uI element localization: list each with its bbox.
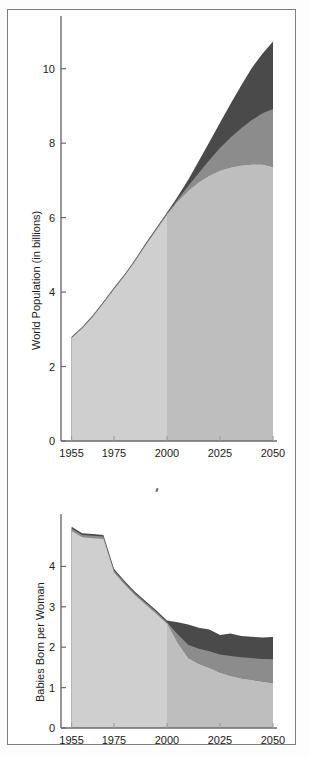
y-tick-label: 1 [49, 682, 55, 694]
y-tick-label: 0 [49, 722, 55, 734]
x-tick-label: 2050 [261, 734, 285, 746]
x-tick-label: 1975 [102, 447, 126, 459]
chart-world-population: World Population (in billions) 024681019… [8, 10, 297, 480]
y-tick-label: 3 [49, 601, 55, 613]
y-tick-label: 4 [49, 560, 55, 572]
x-tick-label: 1955 [59, 734, 83, 746]
y-tick-label: 0 [49, 435, 55, 447]
y-tick-label: 2 [49, 361, 55, 373]
x-tick-label: 2025 [208, 447, 232, 459]
x-tick-label: 1975 [102, 734, 126, 746]
world-population-area-chart: 024681019551975200020252050 [8, 10, 297, 480]
y-tick-label: 8 [49, 137, 55, 149]
x-tick-label: 2000 [155, 447, 179, 459]
chart-babies-per-woman: Babies Born per Woman 012341955197520002… [8, 480, 297, 746]
y-tick-label: 10 [43, 63, 55, 75]
x-tick-label: 2000 [155, 734, 179, 746]
x-tick-label: 2025 [208, 734, 232, 746]
y-tick-label: 2 [49, 641, 55, 653]
babies-per-woman-area-chart: 0123419551975200020252050 [8, 480, 297, 746]
y-tick-label: 6 [49, 212, 55, 224]
figure-page: World Population (in billions) 024681019… [0, 0, 309, 757]
x-tick-label: 2050 [261, 447, 285, 459]
x-tick-label: 1955 [59, 447, 83, 459]
figure-frame: World Population (in billions) 024681019… [7, 9, 296, 745]
y-tick-label: 4 [49, 286, 55, 298]
